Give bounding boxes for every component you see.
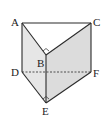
triangular-prism-diagram: A C B D F E xyxy=(0,0,108,123)
label-B: B xyxy=(37,57,44,69)
label-F: F xyxy=(93,67,99,79)
label-A: A xyxy=(11,16,19,28)
label-E: E xyxy=(42,105,49,117)
label-C: C xyxy=(93,16,100,28)
label-D: D xyxy=(11,66,19,78)
